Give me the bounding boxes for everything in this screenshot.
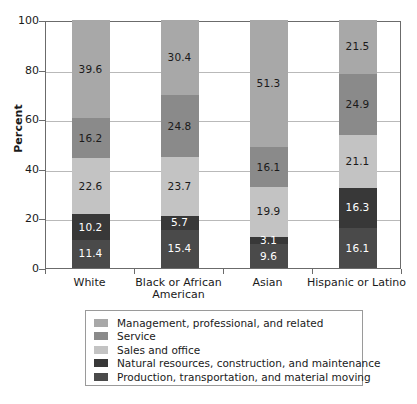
bar-segment-value: 21.5 bbox=[346, 41, 370, 52]
bar-segment[interactable]: 22.6 bbox=[72, 158, 110, 214]
x-axis-tick-mark bbox=[134, 269, 135, 274]
bar-segment-value: 24.9 bbox=[346, 99, 370, 110]
stacked-bar[interactable]: 51.316.119.93.19.6 bbox=[250, 20, 288, 268]
legend-item[interactable]: Management, professional, and related bbox=[94, 316, 362, 330]
bar-segment[interactable]: 16.1 bbox=[250, 147, 288, 187]
bar-segment-value: 30.4 bbox=[168, 52, 192, 63]
legend-swatch bbox=[94, 359, 108, 367]
legend-label: Service bbox=[117, 330, 156, 342]
bar-segment[interactable]: 21.1 bbox=[339, 135, 377, 187]
bar-segment[interactable]: 24.8 bbox=[161, 95, 199, 157]
legend-item[interactable]: Service bbox=[94, 330, 362, 344]
bar-segment[interactable]: 39.6 bbox=[72, 20, 110, 118]
legend-label: Production, transportation, and material… bbox=[117, 371, 371, 383]
y-axis-tick-label: 0 bbox=[5, 264, 39, 274]
x-axis-tick-mark bbox=[45, 269, 46, 274]
bar-segment[interactable]: 30.4 bbox=[161, 20, 199, 95]
bar-slot: 21.524.921.116.316.1 bbox=[313, 22, 402, 268]
bar-segment[interactable]: 51.3 bbox=[250, 20, 288, 147]
bar-segment[interactable]: 15.4 bbox=[161, 230, 199, 268]
x-axis-tick-mark bbox=[312, 269, 313, 274]
bar-segment-value: 9.6 bbox=[260, 251, 277, 262]
legend-swatch bbox=[94, 346, 108, 354]
y-axis-tick-label: 80 bbox=[5, 66, 39, 76]
stacked-bar[interactable]: 30.424.823.75.715.4 bbox=[161, 20, 199, 268]
bar-slot: 51.316.119.93.19.6 bbox=[224, 22, 313, 268]
bar-segment[interactable]: 16.1 bbox=[339, 228, 377, 268]
bar-segment-value: 11.4 bbox=[79, 248, 103, 259]
legend: Management, professional, and relatedSer… bbox=[85, 310, 363, 386]
bar-segment-value: 5.7 bbox=[171, 217, 188, 228]
bar-segment[interactable]: 19.9 bbox=[250, 187, 288, 236]
bar-segment-value: 22.6 bbox=[79, 181, 103, 192]
legend-swatch bbox=[94, 319, 108, 327]
y-axis-tick-label: 60 bbox=[5, 115, 39, 125]
legend-item[interactable]: Production, transportation, and material… bbox=[94, 370, 362, 384]
bar-segment-value: 51.3 bbox=[257, 78, 281, 89]
y-axis-tick-label: 40 bbox=[5, 165, 39, 175]
bar-segment-value: 16.1 bbox=[346, 243, 370, 254]
bar-segment-value: 39.6 bbox=[79, 64, 103, 75]
stacked-bar[interactable]: 39.616.222.610.211.4 bbox=[72, 20, 110, 268]
stacked-bar[interactable]: 21.524.921.116.316.1 bbox=[339, 20, 377, 268]
legend-item[interactable]: Natural resources, construction, and mai… bbox=[94, 357, 362, 371]
bar-segment[interactable]: 11.4 bbox=[72, 240, 110, 268]
bar-slot: 39.616.222.610.211.4 bbox=[46, 22, 135, 268]
bar-segment-value: 23.7 bbox=[168, 181, 192, 192]
bar-segment[interactable]: 9.6 bbox=[250, 244, 288, 268]
bar-segment-value: 24.8 bbox=[168, 121, 192, 132]
bar-segment-value: 16.1 bbox=[257, 162, 281, 173]
legend-label: Sales and office bbox=[117, 344, 200, 356]
bar-segment[interactable]: 10.2 bbox=[72, 214, 110, 239]
legend-label: Natural resources, construction, and mai… bbox=[117, 357, 380, 369]
y-axis-title: Percent bbox=[12, 89, 25, 169]
legend-item[interactable]: Sales and office bbox=[94, 343, 362, 357]
bar-slot: 30.424.823.75.715.4 bbox=[135, 22, 224, 268]
bar-segment-value: 16.2 bbox=[79, 133, 103, 144]
bar-segment-value: 21.1 bbox=[346, 156, 370, 167]
bar-segment-value: 15.4 bbox=[168, 243, 192, 254]
x-axis-category-label: Hispanic or Latino bbox=[302, 277, 411, 289]
bar-segment-value: 16.3 bbox=[346, 202, 370, 213]
bar-segment[interactable]: 24.9 bbox=[339, 74, 377, 136]
bar-segment-value: 10.2 bbox=[79, 222, 103, 233]
legend-swatch bbox=[94, 373, 108, 381]
bar-segment[interactable]: 21.5 bbox=[339, 20, 377, 73]
bar-segment[interactable]: 3.1 bbox=[250, 237, 288, 245]
legend-swatch bbox=[94, 332, 108, 340]
stacked-bar-chart: Percent 020406080100 39.616.222.610.211.… bbox=[0, 0, 417, 404]
y-axis-tick-label: 100 bbox=[5, 16, 39, 26]
bar-segment[interactable]: 16.2 bbox=[72, 118, 110, 158]
bar-segment[interactable]: 5.7 bbox=[161, 216, 199, 230]
bar-segment[interactable]: 23.7 bbox=[161, 157, 199, 216]
bar-segment-value: 19.9 bbox=[257, 206, 281, 217]
y-axis-tick-label: 20 bbox=[5, 214, 39, 224]
legend-label: Management, professional, and related bbox=[117, 317, 323, 329]
plot-area: 39.616.222.610.211.430.424.823.75.715.45… bbox=[45, 21, 401, 269]
bar-segment[interactable]: 16.3 bbox=[339, 188, 377, 228]
x-axis-tick-mark bbox=[401, 269, 402, 274]
x-axis-tick-mark bbox=[223, 269, 224, 274]
